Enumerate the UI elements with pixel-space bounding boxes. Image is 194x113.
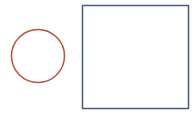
diagram-canvas: [0, 0, 194, 113]
red-circle: [12, 30, 65, 83]
blue-square: [83, 6, 189, 109]
